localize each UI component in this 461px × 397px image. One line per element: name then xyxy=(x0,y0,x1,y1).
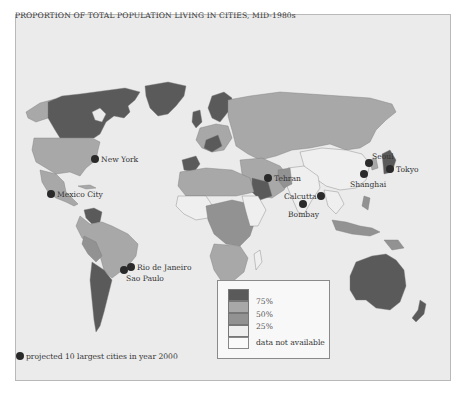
city-dot-rio xyxy=(127,263,135,271)
region-usa xyxy=(32,138,100,176)
legend-swatch-75 xyxy=(228,289,249,301)
city-label-tokyo: Tokyo xyxy=(396,165,419,174)
city-label-rio: Rio de Janeiro xyxy=(137,263,192,272)
city-dot-tokyo xyxy=(386,165,394,173)
city-dot-bombay xyxy=(299,200,307,208)
legend-label-25: 25% xyxy=(256,322,273,331)
city-dot-mexico-city xyxy=(47,190,55,198)
region-new-guinea xyxy=(384,240,404,250)
city-dot-calcutta xyxy=(317,192,325,200)
legend-swatch-no-data xyxy=(228,337,249,349)
legend-label-no-data: data not available xyxy=(256,338,325,347)
legend-label-75: 75% xyxy=(256,297,273,306)
footnote: projected 10 largest cities in year 2000 xyxy=(16,352,178,361)
region-caribbean xyxy=(78,185,96,189)
city-label-shanghai: Shanghai xyxy=(350,180,386,189)
region-indonesia xyxy=(332,220,380,236)
region-madagascar xyxy=(254,250,262,270)
region-se-asia xyxy=(324,190,344,214)
city-dot-shanghai xyxy=(360,170,368,178)
city-label-sao-paulo: Sao Paulo xyxy=(126,274,164,283)
city-dot-sao-paulo xyxy=(120,266,128,274)
region-philippines xyxy=(362,196,370,210)
legend-swatch-50 xyxy=(228,301,249,313)
city-label-mexico-city: Mexico City xyxy=(57,190,103,199)
footnote-text: projected 10 largest cities in year 2000 xyxy=(26,352,178,361)
city-dot-icon xyxy=(16,352,24,360)
city-dot-tehran xyxy=(264,174,272,182)
region-southern-africa xyxy=(210,244,248,282)
region-nz xyxy=(412,300,426,322)
region-australia xyxy=(350,254,406,310)
city-label-bombay: Bombay xyxy=(288,210,319,219)
legend-swatch-below-25 xyxy=(228,325,249,337)
legend: 75% 50% 25% data not available xyxy=(217,280,330,359)
city-dot-new-york xyxy=(91,155,99,163)
city-label-calcutta: Calcutta xyxy=(284,192,317,201)
region-uk xyxy=(192,110,202,128)
city-label-seoul: Seoul xyxy=(372,152,394,161)
legend-swatch-25 xyxy=(228,313,249,325)
region-greenland xyxy=(145,82,186,116)
city-label-new-york: New York xyxy=(101,155,138,164)
city-label-tehran: Tehran xyxy=(274,174,301,183)
legend-label-50: 50% xyxy=(256,310,273,319)
region-mexico xyxy=(40,170,78,206)
